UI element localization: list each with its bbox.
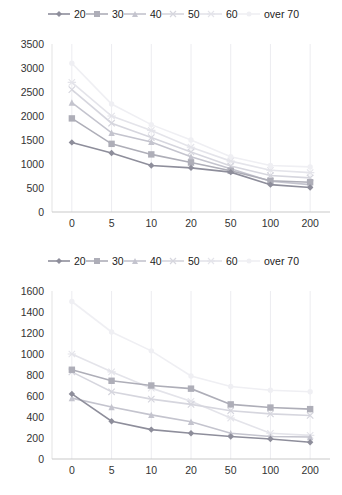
y-tick-label: 0: [38, 206, 44, 218]
asterisk-marker: [207, 258, 215, 264]
y-tick-label: 400: [26, 411, 44, 423]
circle-marker: [247, 12, 252, 17]
legend-item-over-70: over 70: [238, 8, 299, 20]
circle-marker: [268, 163, 273, 168]
circle-marker: [188, 137, 193, 142]
legend-label: over 70: [264, 8, 299, 20]
diamond-marker: [188, 430, 194, 436]
square-marker: [228, 401, 234, 407]
legend-item-20: 20: [48, 255, 86, 267]
legend-item-50: 50: [162, 255, 200, 267]
circle-marker: [69, 299, 74, 304]
x-tick-label: 0: [69, 217, 75, 229]
square-marker: [148, 151, 154, 157]
y-tick-label: 800: [26, 369, 44, 381]
legend-item-20: 20: [48, 8, 86, 20]
legend-item-40: 40: [124, 8, 162, 20]
diamond-marker: [56, 11, 62, 17]
square-marker: [307, 406, 313, 412]
y-tick-label: 200: [26, 432, 44, 444]
legend-label: 50: [188, 8, 200, 20]
y-tick-label: 500: [26, 182, 44, 194]
square-marker: [94, 11, 100, 17]
legend-item-30: 30: [86, 8, 124, 20]
diamond-marker: [148, 426, 154, 432]
x-tick-label: 5: [109, 464, 115, 476]
age-group-line-chart-top: 0500100015002000250030003500051020501002…: [0, 0, 342, 247]
circle-marker: [247, 259, 252, 264]
circle-marker: [109, 329, 114, 334]
square-marker: [69, 115, 75, 121]
diamond-marker: [69, 139, 75, 145]
y-tick-label: 2000: [21, 110, 45, 122]
square-marker: [108, 141, 114, 147]
x-tick-label: 100: [262, 464, 280, 476]
x-tick-label: 50: [225, 464, 237, 476]
legend: 2030405060over 70: [48, 8, 299, 20]
square-marker: [148, 382, 154, 388]
legend: 2030405060over 70: [48, 255, 299, 267]
square-marker: [267, 404, 273, 410]
chart-top: 0500100015002000250030003500051020501002…: [0, 0, 342, 247]
legend-label: 30: [112, 8, 124, 20]
y-tick-label: 600: [26, 390, 44, 402]
legend-item-50: 50: [162, 8, 200, 20]
circle-marker: [69, 61, 74, 66]
chart-bottom: 0200400600800100012001400160005102050100…: [0, 247, 342, 494]
x-tick-label: 20: [185, 464, 197, 476]
x-tick-label: 50: [225, 217, 237, 229]
square-marker: [188, 385, 194, 391]
x-tick-label: 0: [69, 464, 75, 476]
y-tick-label: 3000: [21, 62, 45, 74]
age-group-line-chart-bottom: 0200400600800100012001400160005102050100…: [0, 247, 342, 494]
legend-label: 20: [74, 8, 86, 20]
legend-item-over-70: over 70: [238, 255, 299, 267]
square-marker: [69, 367, 75, 373]
circle-marker: [307, 164, 312, 169]
y-axis-ticks: 0500100015002000250030003500: [21, 38, 45, 218]
y-axis-ticks: 02004006008001000120014001600: [21, 285, 45, 465]
diamond-marker: [56, 258, 62, 264]
circle-marker: [268, 388, 273, 393]
diamond-marker: [148, 162, 154, 168]
age-group-charts: 0500100015002000250030003500051020501002…: [0, 0, 342, 495]
legend-label: over 70: [264, 255, 299, 267]
y-tick-label: 1500: [21, 134, 45, 146]
y-tick-label: 1600: [21, 285, 45, 297]
legend-item-40: 40: [124, 255, 162, 267]
y-tick-label: 0: [38, 453, 44, 465]
legend-label: 40: [150, 8, 162, 20]
legend-label: 50: [188, 255, 200, 267]
square-marker: [94, 258, 100, 264]
x-axis-ticks: 05102050100200: [69, 464, 319, 476]
y-tick-label: 3500: [21, 38, 45, 50]
circle-marker: [188, 373, 193, 378]
circle-marker: [149, 348, 154, 353]
legend-label: 30: [112, 255, 124, 267]
x-tick-label: 5: [109, 217, 115, 229]
legend-label: 40: [150, 255, 162, 267]
x-tick-label: 10: [145, 217, 157, 229]
circle-marker: [307, 389, 312, 394]
x-tick-label: 200: [301, 217, 319, 229]
x-tick-label: 100: [262, 217, 280, 229]
y-tick-label: 1000: [21, 158, 45, 170]
y-tick-label: 2500: [21, 86, 45, 98]
circle-marker: [228, 384, 233, 389]
y-tick-label: 1400: [21, 306, 45, 318]
legend-item-30: 30: [86, 255, 124, 267]
x-axis-ticks: 05102050100200: [69, 217, 319, 229]
legend-label: 60: [226, 8, 238, 20]
asterisk-marker: [207, 11, 215, 17]
x-tick-label: 20: [185, 217, 197, 229]
diamond-marker: [108, 150, 114, 156]
circle-marker: [109, 101, 114, 106]
legend-label: 20: [74, 255, 86, 267]
y-tick-label: 1200: [21, 327, 45, 339]
circle-marker: [149, 122, 154, 127]
legend-item-60: 60: [200, 255, 238, 267]
x-tick-label: 200: [301, 464, 319, 476]
y-tick-label: 1000: [21, 348, 45, 360]
triangle-marker: [69, 99, 75, 105]
square-marker: [108, 378, 114, 384]
